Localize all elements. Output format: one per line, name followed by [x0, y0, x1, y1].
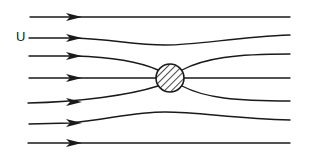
streamline-3: [29, 56, 158, 70]
flow-arrow-icons: [66, 13, 82, 147]
streamline-plot: [0, 0, 311, 156]
free-stream-label: U: [16, 29, 25, 44]
streamline-5-right: [182, 86, 290, 101]
arrow-icon: [66, 98, 82, 106]
streamline-5: [28, 86, 158, 103]
cylinder: [156, 64, 184, 92]
flow-diagram: U: [0, 0, 311, 156]
streamline-3-right: [182, 54, 290, 70]
streamline-6: [29, 112, 290, 124]
